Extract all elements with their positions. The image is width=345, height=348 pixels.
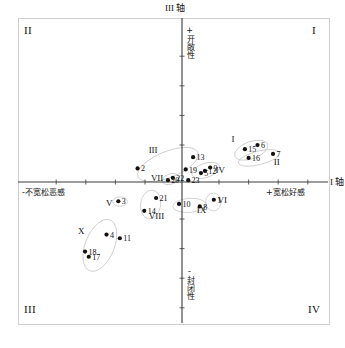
data-point-label: 11 [123,234,131,243]
data-point-label: 21 [160,194,168,203]
data-point[interactable] [177,202,181,206]
data-point-label: 10 [182,200,190,209]
data-point[interactable] [191,155,195,159]
data-point-label: 18 [88,248,96,257]
data-point-label: 19 [189,166,197,175]
quadrant-label-top-right: I [312,24,316,36]
y-axis-negative-label: -封闭性 [185,267,193,317]
cluster-label: IX [197,205,207,215]
data-point[interactable] [243,147,247,151]
data-point-label: 22 [176,174,184,183]
cluster-label: III [149,145,158,155]
data-point-label: 16 [252,154,260,163]
data-point[interactable] [199,171,203,175]
x-axis-negative-label: -不宽松恶感 [22,186,65,197]
data-point-label: 2 [141,164,145,173]
perceptual-map-figure: 1234567891011121314151617181920212223III… [0,0,345,348]
data-point[interactable] [247,156,251,160]
data-point[interactable] [142,209,146,213]
data-point-label: 3 [122,197,126,206]
data-point-label: 6 [261,141,265,150]
data-point-label: 15 [248,145,256,154]
data-point[interactable] [171,176,175,180]
cluster-label: V [106,198,113,208]
data-point[interactable] [118,236,122,240]
quadrant-label-bottom-right: IV [308,303,320,315]
quadrant-label-bottom-left: III [24,303,36,315]
data-point[interactable] [116,199,120,203]
horizontal-axis-name: I 轴 [330,175,344,188]
data-point[interactable] [104,232,108,236]
cluster-label: VIII [149,211,165,221]
data-point[interactable] [184,167,188,171]
plot-canvas: 1234567891011121314151617181920212223III… [0,0,345,348]
data-point[interactable] [271,152,275,156]
cluster-ellipse [76,215,123,277]
y-axis-positive-label: +开敞性 [185,26,193,86]
data-point[interactable] [186,178,190,182]
data-point[interactable] [203,169,207,173]
quadrant-label-top-left: II [24,24,32,36]
cluster-label: I [232,134,235,144]
cluster-label: II [274,157,280,167]
data-point[interactable] [83,249,87,253]
data-point-label: 4 [110,231,114,240]
cluster-label: VI [218,195,228,205]
data-point-label: 23 [192,176,200,185]
data-point[interactable] [154,196,158,200]
data-point-label: 13 [197,153,205,162]
cluster-label: IV [215,165,225,175]
data-point[interactable] [166,178,170,182]
data-point[interactable] [136,166,140,170]
x-axis-positive-label: +宽松好感 [266,186,305,197]
cluster-label: VII [151,173,164,183]
data-point[interactable] [212,198,216,202]
cluster-label: X [78,226,85,236]
vertical-axis-name: III 轴 [165,1,185,14]
